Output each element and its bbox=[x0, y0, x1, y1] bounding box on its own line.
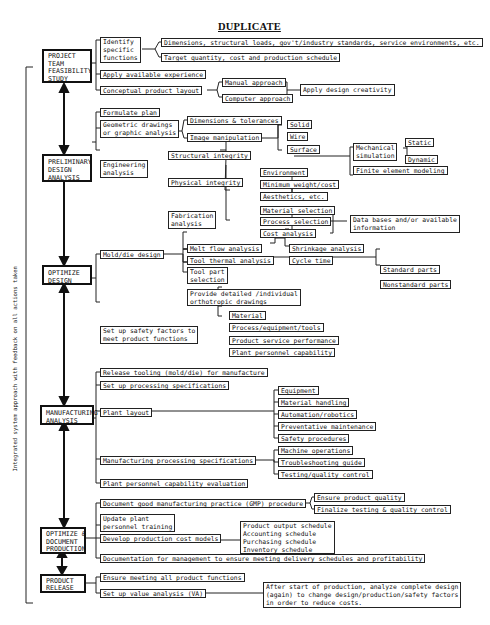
preventative-maintenance: Preventative maintenance bbox=[278, 422, 376, 431]
geometric-drawings: Geometric drawings or graphic analysis bbox=[100, 120, 179, 138]
detailed-drawings: Provide detailed /individual orthotropic… bbox=[187, 289, 301, 306]
feedback-label: Integrated system approach with feedback… bbox=[12, 267, 18, 472]
stage-optimize-design: OPTIMIZE DESIGN bbox=[42, 265, 92, 285]
material-handling: Material handling bbox=[278, 398, 349, 407]
safety-factors: Set up safety factors to meet product fu… bbox=[100, 326, 198, 344]
shrinkage-analysis: Shrinkage analysis bbox=[289, 244, 364, 253]
surface: Surface bbox=[287, 145, 320, 154]
mechanical-simulation: Mechanical simulation bbox=[353, 143, 397, 161]
identify-functions: Identify specific functions bbox=[100, 37, 141, 63]
process-selection: Process selection bbox=[260, 217, 331, 226]
cost-analysis: Cost analysis bbox=[260, 229, 316, 238]
update-training: Update plant personnel training bbox=[100, 514, 175, 532]
physical-integrity: Physical integrity bbox=[168, 178, 243, 187]
static: Static bbox=[405, 138, 434, 147]
nonstandard-parts: Nonstandard parts bbox=[380, 280, 451, 289]
dimensions-tolerances: Dimensions & tolerances bbox=[187, 116, 282, 125]
equipment: Equipment bbox=[278, 386, 319, 395]
stage-optimize-document-production: OPTIMIZE & DOCUMENT PRODUCTION bbox=[40, 527, 86, 554]
product-service-performance: Product service performance bbox=[229, 336, 339, 345]
aesthetics: Aesthetics, etc. bbox=[260, 192, 328, 201]
dimensions-standards: Dimensions, structural loads, gov't/indu… bbox=[161, 38, 483, 47]
finite-element-modeling: Finite element modeling bbox=[353, 166, 448, 175]
wire: Wire bbox=[287, 132, 308, 141]
stage-project-team-feasibility: PROJECT TEAM FEASIBILITY STUDY bbox=[42, 49, 92, 83]
structural-integrity: Structural integrity bbox=[168, 151, 251, 160]
schedules-list: Product output schedule Accounting sched… bbox=[240, 521, 335, 554]
mold-die-design: Mold/die design bbox=[100, 250, 164, 259]
management-documentation: Documentation for management to ensure m… bbox=[100, 554, 425, 563]
target-quantity: Target quantity, cost and production sch… bbox=[161, 53, 340, 62]
melt-flow-analysis: Melt flow analysis bbox=[187, 244, 262, 253]
plant-layout: Plant layout bbox=[100, 408, 152, 417]
image-manipulation: Image manipulation bbox=[187, 133, 262, 142]
computer-approach: Computer approach bbox=[222, 94, 293, 103]
apply-experience: Apply available experience bbox=[100, 70, 206, 79]
material: Material bbox=[229, 311, 266, 320]
stage-manufacturing-analysis: MANUFACTURING ANALYSIS bbox=[40, 405, 94, 425]
ensure-product-functions: Ensure meeting all product functions bbox=[100, 573, 245, 582]
tool-thermal-analysis: Tool thermal analysis bbox=[187, 256, 274, 265]
manual-approach: Manual approach bbox=[222, 78, 286, 87]
standard-parts: Standard parts bbox=[380, 265, 440, 274]
solid: Solid bbox=[287, 120, 312, 129]
conceptual-layout: Conceptual product layout bbox=[100, 86, 202, 95]
value-analysis: Set up value analysis (VA) bbox=[100, 589, 206, 598]
apply-creativity: Apply design creativity bbox=[300, 84, 395, 96]
processing-specifications: Set up processing specifications bbox=[100, 381, 229, 390]
machine-operations: Machine operations bbox=[278, 446, 353, 455]
material-selection: Material selection bbox=[260, 206, 335, 215]
data-bases: Data bases and/or available information bbox=[350, 215, 460, 233]
stage-product-release: PRODUCT RELEASE bbox=[40, 574, 86, 593]
automation-robotics: Automation/robotics bbox=[278, 410, 357, 419]
stage-preliminary-design: PRELIMINARY DESIGN ANALYSIS bbox=[42, 154, 92, 182]
ensure-product-quality: Ensure product quality bbox=[314, 493, 405, 502]
gmp-procedure: Document good manufacturing practice (GM… bbox=[100, 499, 306, 508]
process-equipment-tools: Process/equipment/tools bbox=[229, 323, 324, 332]
tool-part-selection: Tool part selection bbox=[187, 267, 228, 284]
release-tooling: Release tooling (mold/die) for manufactu… bbox=[100, 368, 268, 377]
finalize-testing: Finalize testing & quality control bbox=[314, 505, 451, 514]
manufacturing-processing-specs: Manufacturing processing specifications bbox=[100, 456, 256, 465]
fabrication-analysis: Fabrication analysis bbox=[168, 211, 216, 229]
dynamic: Dynamic bbox=[405, 155, 438, 164]
formulate-plan: Formulate plan bbox=[100, 108, 160, 117]
cycle-time: Cycle time bbox=[289, 256, 333, 265]
personnel-capability-evaluation: Plant personnel capability evaluation bbox=[100, 479, 248, 488]
troubleshooting-guide: Troubleshooting guide bbox=[278, 458, 365, 467]
environment: Environment bbox=[260, 168, 308, 177]
after-start-production-note: After start of production, analyze compl… bbox=[263, 582, 461, 608]
safety-procedures: Safety procedures bbox=[278, 434, 349, 443]
plant-personnel-capability: Plant personnel capability bbox=[229, 348, 335, 357]
engineering-analysis: Engineering analysis bbox=[100, 160, 148, 178]
testing-quality-control: Testing/quality control bbox=[278, 470, 373, 479]
minimum-weight-cost: Minimum weight/cost bbox=[260, 180, 339, 189]
production-cost-models: Develop production cost models bbox=[100, 534, 221, 543]
